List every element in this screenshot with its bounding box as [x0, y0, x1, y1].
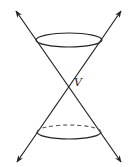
double-cone-graphic — [0, 0, 129, 167]
lower-nappe-ellipse-back — [37, 125, 101, 132]
double-cone-diagram: V — [0, 0, 129, 167]
lower-nappe-ellipse-front — [37, 132, 101, 139]
upper-nappe-ellipse — [36, 33, 102, 47]
vertex-label: V — [74, 77, 82, 88]
